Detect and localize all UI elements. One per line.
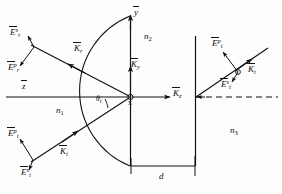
transmitted-p-field-arrow — [223, 52, 238, 72]
origin-x-label: x — [128, 99, 132, 107]
transmitted-ray-line — [196, 48, 268, 97]
k-y-vector-label: Ky — [131, 60, 140, 71]
incidence-angle-arc — [105, 99, 108, 108]
wavefront-arc — [80, 16, 130, 166]
k-z-vector-label: Kz — [173, 89, 182, 100]
incident-ray-arrow — [62, 131, 78, 142]
diagram-vector-graphics — [0, 0, 282, 194]
incident-ray-line — [31, 98, 129, 162]
medium-1-index-label: n1 — [56, 106, 64, 117]
field-reflected-p-label: Epr — [8, 62, 19, 74]
field-reflected-s-label: Esr — [10, 27, 21, 39]
k-incident-label: Ki — [60, 147, 68, 158]
incidence-angle-label: θi — [96, 95, 102, 105]
k-transmitted-label: Kt — [248, 65, 256, 76]
medium-2-index-label: n2 — [144, 32, 152, 43]
transmitted-s-field-arrow — [232, 72, 238, 82]
medium-3-index-label: n3 — [230, 126, 238, 137]
field-transmitted-p-label: Ept — [212, 38, 223, 50]
thickness-label: d — [159, 172, 164, 181]
z-axis-label: z — [22, 82, 26, 91]
k-reflected-label: Kr — [74, 44, 83, 55]
y-axis-label: y — [134, 8, 138, 17]
reflected-p-field-arrow — [20, 47, 34, 66]
figure-canvas: y z x Ky Kz n1 n2 n3 θi d Kr Ki — [0, 0, 282, 194]
field-transmitted-s-label: Est — [221, 79, 231, 91]
field-incident-s-label: Esi — [21, 167, 31, 179]
incident-p-field-arrow — [20, 139, 33, 160]
field-incident-p-label: Epi — [8, 128, 19, 140]
